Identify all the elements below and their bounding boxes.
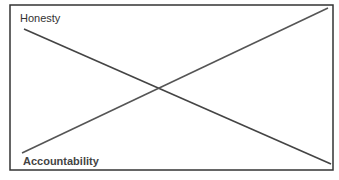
- diagram-frame: [10, 5, 333, 170]
- accountability-label: Accountability: [23, 155, 99, 167]
- honesty-label: Honesty: [20, 12, 60, 24]
- diagram-canvas: [0, 0, 339, 180]
